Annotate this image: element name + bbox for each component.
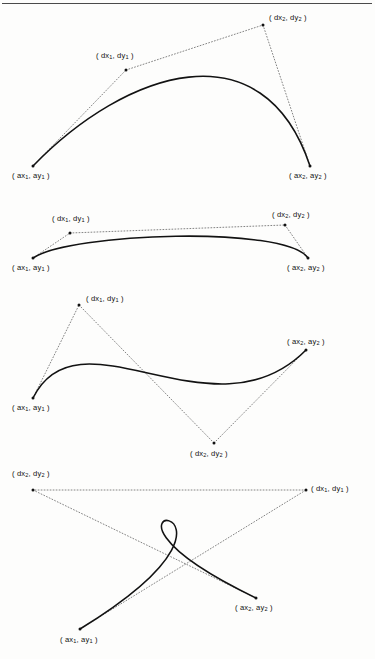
anchor-point-dot-anchor2	[309, 165, 312, 168]
anchor-point-dot-anchor1	[79, 628, 82, 631]
label-control2: ( dx2, dy2 )	[12, 470, 50, 478]
control-point-dot-control2	[262, 24, 265, 27]
control-polygon-span	[126, 25, 263, 70]
control-point-dot-control2	[213, 442, 216, 445]
s-curve	[32, 304, 308, 445]
control-point-dot-control2	[32, 489, 35, 492]
anchor-point-dot-anchor2	[255, 597, 258, 600]
control-polygon-span	[79, 305, 214, 443]
label-anchor2: ( ax2, ay2 )	[287, 264, 325, 272]
label-control1: ( dx1, dy1 )	[96, 52, 134, 60]
label-anchor2: ( ax2, ay2 )	[289, 172, 327, 180]
anchor-point-dot-anchor1	[32, 397, 35, 400]
bezier-curve	[33, 76, 310, 166]
page-top-rule	[2, 3, 372, 4]
control-handle-end	[33, 490, 256, 598]
control-point-dot-control1	[305, 489, 308, 492]
bezier-curve	[33, 350, 306, 398]
control-handle-start	[33, 305, 79, 398]
control-polygon-span	[70, 225, 285, 233]
arch-curve	[32, 24, 312, 168]
control-handle-start	[33, 233, 70, 258]
label-control2: ( dx2, dy2 )	[190, 450, 228, 458]
label-anchor1: ( ax1, ay1 )	[12, 264, 50, 272]
control-point-dot-control1	[125, 69, 128, 72]
control-point-dot-control1	[69, 232, 72, 235]
bezier-figures-canvas	[0, 0, 375, 659]
bezier-curve	[80, 521, 256, 629]
shallow-arc-curve	[32, 224, 310, 260]
control-handle-end	[285, 225, 308, 258]
label-control2: ( dx2, dy2 )	[272, 211, 310, 219]
document-page: ( ax1, ay1 )( dx1, dy1 )( dx2, dy2 )( ax…	[0, 0, 375, 659]
label-control1: ( dx1, dy1 )	[86, 295, 124, 303]
label-anchor1: ( ax1, ay1 )	[12, 404, 50, 412]
label-anchor2: ( ax2, ay2 )	[235, 604, 273, 612]
anchor-point-dot-anchor2	[305, 349, 308, 352]
label-control1: ( dx1, dy1 )	[52, 215, 90, 223]
label-anchor2: ( ax2, ay2 )	[287, 338, 325, 346]
control-handle-end	[214, 350, 306, 443]
anchor-point-dot-anchor1	[32, 257, 35, 260]
control-handle-end	[263, 25, 310, 166]
control-point-dot-control2	[284, 224, 287, 227]
anchor-point-dot-anchor1	[32, 165, 35, 168]
anchor-point-dot-anchor2	[307, 257, 310, 260]
control-point-dot-control1	[78, 304, 81, 307]
bezier-curve	[33, 236, 308, 258]
label-anchor1: ( ax1, ay1 )	[12, 172, 50, 180]
label-control1: ( dx1, dy1 )	[311, 485, 349, 493]
label-control2: ( dx2, dy2 )	[269, 14, 307, 22]
label-anchor1: ( ax1, ay1 )	[60, 636, 98, 644]
control-handle-start	[33, 70, 126, 166]
